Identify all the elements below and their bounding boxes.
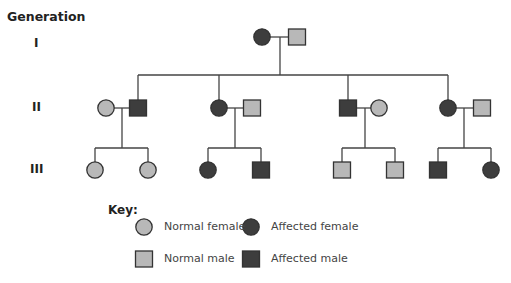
individual-iii-7-affected-male-icon <box>430 162 447 178</box>
individual-iii-2-normal-female-icon <box>140 162 156 178</box>
individual-ii-5-affected-male-icon <box>340 100 357 116</box>
generation-label-iii: III <box>30 162 43 176</box>
individual-iii-4-affected-male-icon <box>253 162 270 178</box>
individual-ii-2-affected-male-icon <box>130 100 147 116</box>
relationship-lines <box>95 37 491 162</box>
key-title: Key: <box>108 203 138 217</box>
individual-ii-6-normal-female-icon <box>371 100 387 116</box>
individual-ii-8-normal-male-icon <box>474 100 491 116</box>
individual-i-1-affected-female-icon <box>254 29 270 45</box>
individuals <box>87 29 499 178</box>
individual-iii-3-affected-female-icon <box>200 162 216 178</box>
individual-iii-5-normal-male-icon <box>334 162 351 178</box>
normal-male-icon <box>136 251 153 267</box>
individual-iii-1-normal-female-icon <box>87 162 103 178</box>
generation-label-i: I <box>34 36 38 50</box>
key-label-affected-female: Affected female <box>271 220 358 233</box>
individual-iii-6-normal-male-icon <box>387 162 404 178</box>
affected-male-icon <box>243 251 260 267</box>
generation-label-ii: II <box>32 100 41 114</box>
key-label-affected-male: Affected male <box>271 252 348 265</box>
individual-ii-4-normal-male-icon <box>244 100 261 116</box>
individual-iii-8-affected-female-icon <box>483 162 499 178</box>
affected-female-icon <box>243 219 259 235</box>
individual-ii-7-affected-female-icon <box>440 100 456 116</box>
normal-female-icon <box>136 219 152 235</box>
generation-header: Generation <box>7 9 85 24</box>
individual-ii-1-normal-female-icon <box>98 100 114 116</box>
individual-i-2-normal-male-icon <box>289 29 306 45</box>
individual-ii-3-affected-female-icon <box>211 100 227 116</box>
key-label-normal-male: Normal male <box>164 252 235 265</box>
pedigree-diagram <box>0 0 511 283</box>
key-label-normal-female: Normal female <box>164 220 245 233</box>
